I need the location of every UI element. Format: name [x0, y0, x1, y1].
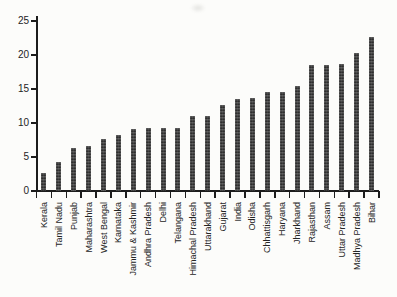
bar: [146, 128, 151, 191]
y-tick-label: 15: [4, 83, 29, 95]
bar: [295, 86, 300, 191]
x-axis-tick: [244, 191, 246, 198]
x-axis-tick: [80, 191, 82, 198]
x-axis-tick: [155, 191, 157, 198]
x-axis-tick: [229, 191, 231, 198]
x-tick-label: Maharashtra: [83, 202, 95, 297]
bar: [250, 98, 255, 191]
x-axis-tick: [274, 191, 276, 198]
x-axis-tick: [125, 191, 127, 198]
x-tick-label: Haryana: [276, 202, 288, 297]
y-axis-line: [36, 16, 38, 192]
bar: [235, 99, 240, 191]
bar: [354, 53, 359, 191]
x-tick-label: Andhra Pradesh: [142, 202, 154, 297]
bar: [309, 65, 314, 191]
bar: [339, 64, 344, 191]
x-axis-tick: [348, 191, 350, 198]
y-axis-tick: [31, 20, 37, 22]
bar: [324, 65, 329, 191]
x-axis-tick: [95, 191, 97, 198]
x-tick-label: Jharkhand: [291, 202, 303, 297]
x-axis-tick: [289, 191, 291, 198]
bar: [190, 116, 195, 191]
x-axis-tick: [319, 191, 321, 198]
bar: [161, 128, 166, 191]
x-tick-label: Rajasthan: [306, 202, 318, 297]
x-tick-label: Telangana: [172, 202, 184, 297]
x-axis-tick: [66, 191, 68, 198]
x-axis-tick: [36, 191, 38, 198]
bar: [205, 116, 210, 191]
y-tick-label: 10: [4, 117, 29, 129]
bar: [86, 146, 91, 191]
x-axis-tick: [334, 191, 336, 198]
x-tick-label: Gujarat: [217, 202, 229, 297]
x-tick-label: Odisha: [246, 202, 258, 297]
x-tick-label: Delhi: [157, 202, 169, 297]
x-axis-tick: [110, 191, 112, 198]
bar: [220, 105, 225, 191]
x-tick-label: West Bengal: [98, 202, 110, 297]
x-axis-tick: [259, 191, 261, 198]
x-axis-tick: [378, 191, 380, 198]
bar: [280, 92, 285, 191]
x-axis-tick: [363, 191, 365, 198]
y-tick-label: 25: [4, 15, 29, 27]
y-axis-tick: [31, 156, 37, 158]
x-tick-label: Jammu & Kashmir: [127, 202, 139, 297]
scan-artifact: [190, 3, 206, 13]
y-axis-tick: [31, 122, 37, 124]
y-tick-label: 20: [4, 49, 29, 61]
x-axis-tick: [304, 191, 306, 198]
bar: [71, 148, 76, 191]
x-tick-label: Chhattisgarh: [261, 202, 273, 297]
bar: [116, 135, 121, 191]
bar: [131, 129, 136, 191]
bar-chart: 0510152025 KeralaTamil NaduPunjabMaharas…: [0, 0, 397, 297]
x-axis-tick: [51, 191, 53, 198]
x-tick-label: Karnataka: [112, 202, 124, 297]
x-axis-tick: [200, 191, 202, 198]
x-tick-label: Himachal Pradesh: [187, 202, 199, 297]
x-axis-tick: [185, 191, 187, 198]
bar: [41, 173, 46, 191]
bar: [265, 92, 270, 191]
x-tick-label: Tamil Nadu: [53, 202, 65, 297]
bar: [101, 139, 106, 191]
x-tick-label: Uttarakhand: [202, 202, 214, 297]
x-tick-label: Madhya Pradesh: [351, 202, 363, 297]
x-axis-tick: [214, 191, 216, 198]
x-tick-label: Punjab: [68, 202, 80, 297]
x-axis-tick: [140, 191, 142, 198]
x-tick-label: Assam: [321, 202, 333, 297]
bar: [56, 162, 61, 191]
x-tick-label: Bihar: [366, 202, 378, 297]
x-tick-label: Uttar Pradesh: [336, 202, 348, 297]
bar: [175, 128, 180, 191]
x-tick-label: India: [232, 202, 244, 297]
bar-chart-figure: 0510152025 KeralaTamil NaduPunjabMaharas…: [0, 0, 397, 297]
y-tick-label: 0: [4, 185, 29, 197]
y-axis-tick: [31, 88, 37, 90]
y-axis-tick: [31, 54, 37, 56]
x-tick-label: Kerala: [38, 202, 50, 297]
y-tick-label: 5: [4, 151, 29, 163]
bar: [369, 37, 374, 191]
x-axis-tick: [170, 191, 172, 198]
